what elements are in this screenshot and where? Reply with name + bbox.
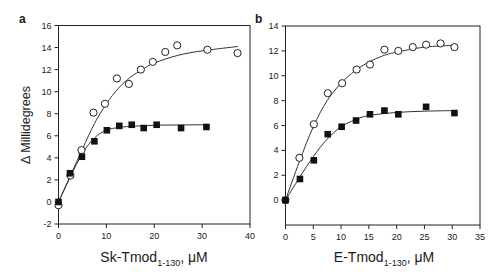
y-tick-label: 12 bbox=[41, 65, 51, 75]
x-tick-label: 40 bbox=[245, 231, 255, 241]
data-point-square bbox=[153, 121, 160, 128]
x-axis-title-main: Sk-Tmod bbox=[100, 249, 157, 265]
data-point-circle bbox=[437, 40, 444, 47]
data-point-square bbox=[79, 153, 86, 160]
panel-label-a: a bbox=[19, 12, 26, 26]
y-tick-label: 10 bbox=[268, 71, 278, 81]
y-tick-label: 8 bbox=[46, 109, 51, 119]
x-tick-label: 10 bbox=[101, 231, 111, 241]
y-tick-label: 10 bbox=[41, 87, 51, 97]
y-tick-label: 14 bbox=[41, 43, 51, 53]
x-axis-title-b: E-Tmod1-130, μM bbox=[334, 249, 434, 268]
x-axis-title-unit: , μM bbox=[407, 249, 435, 265]
y-tick-label: 16 bbox=[41, 21, 51, 31]
data-point-circle bbox=[101, 100, 108, 107]
data-point-square bbox=[338, 123, 345, 130]
data-point-circle bbox=[409, 44, 416, 51]
data-point-circle bbox=[234, 49, 241, 56]
x-ticks-b: 05101520253035 bbox=[283, 225, 485, 242]
y-tick-label: 0 bbox=[273, 195, 278, 205]
y-tick-label: 0 bbox=[46, 197, 51, 207]
x-tick-label: 0 bbox=[56, 231, 61, 241]
data-point-square bbox=[203, 124, 210, 131]
data-point-square bbox=[104, 127, 111, 134]
panel-b: b 02468101214 05101520253035 E-Tmod1-130… bbox=[255, 12, 485, 268]
y-ticks-b: 02468101214 bbox=[268, 21, 285, 205]
x-tick-label: 20 bbox=[392, 232, 402, 242]
panel-label-b: b bbox=[255, 12, 262, 26]
x-axis-title-subscript: 1-130 bbox=[384, 258, 407, 268]
data-point-circle bbox=[149, 58, 156, 65]
data-point-square bbox=[116, 123, 123, 130]
data-point-circle bbox=[137, 66, 144, 73]
data-point-circle bbox=[162, 48, 169, 55]
fit-curves-a bbox=[59, 46, 239, 201]
y-tick-label: 6 bbox=[273, 121, 278, 131]
data-point-circle bbox=[353, 66, 360, 73]
x-tick-label: 20 bbox=[149, 231, 159, 241]
data-point-circle bbox=[78, 147, 85, 154]
data-point-square bbox=[140, 125, 147, 132]
x-tick-label: 25 bbox=[419, 232, 429, 242]
data-point-square bbox=[423, 104, 430, 111]
data-point-circle bbox=[125, 80, 132, 87]
y-tick-label: 4 bbox=[273, 145, 278, 155]
data-point-circle bbox=[366, 61, 373, 68]
y-tick-label: 2 bbox=[273, 170, 278, 180]
data-point-circle bbox=[451, 44, 458, 51]
data-point-circle bbox=[90, 109, 97, 116]
y-tick-label: -2 bbox=[43, 219, 51, 229]
figure: Δ Millidegrees a -20246810121416 0102030… bbox=[0, 0, 499, 276]
data-point-circle bbox=[339, 80, 346, 87]
fit-curve bbox=[59, 125, 207, 202]
x-tick-label: 35 bbox=[475, 232, 485, 242]
x-axis-title-main: E-Tmod bbox=[334, 249, 384, 265]
x-tick-label: 30 bbox=[447, 232, 457, 242]
data-point-circle bbox=[113, 75, 120, 82]
x-tick-label: 10 bbox=[336, 232, 346, 242]
data-point-square bbox=[367, 111, 374, 118]
y-tick-label: 14 bbox=[268, 21, 278, 31]
data-point-circle bbox=[422, 41, 429, 48]
data-point-square bbox=[324, 131, 331, 138]
y-axis-title: Δ Millidegrees bbox=[19, 86, 33, 164]
data-point-circle bbox=[204, 46, 211, 53]
data-points-b bbox=[282, 40, 458, 204]
fit-curve bbox=[59, 46, 239, 201]
data-point-circle bbox=[310, 121, 317, 128]
data-point-square bbox=[178, 125, 185, 132]
data-point-circle bbox=[381, 46, 388, 53]
x-ticks-a: 010203040 bbox=[56, 224, 255, 241]
data-point-circle bbox=[296, 154, 303, 161]
data-point-square bbox=[381, 107, 388, 114]
data-point-square bbox=[91, 138, 98, 145]
panel-a: a -20246810121416 010203040 Sk-Tmod1-130… bbox=[19, 12, 255, 268]
data-point-circle bbox=[395, 47, 402, 54]
y-ticks-a: -20246810121416 bbox=[41, 21, 58, 230]
data-point-square bbox=[67, 170, 74, 177]
data-point-circle bbox=[174, 42, 181, 49]
data-point-square bbox=[55, 199, 62, 206]
data-point-square bbox=[128, 121, 135, 128]
data-point-square bbox=[311, 157, 318, 164]
x-tick-label: 30 bbox=[197, 231, 207, 241]
x-axis-title-subscript: 1-130 bbox=[157, 258, 180, 268]
y-tick-label: 6 bbox=[46, 131, 51, 141]
y-tick-label: 12 bbox=[268, 46, 278, 56]
x-axis-title-a: Sk-Tmod1-130, μM bbox=[100, 249, 207, 268]
x-tick-label: 0 bbox=[283, 232, 288, 242]
x-axis-title-unit: , μM bbox=[180, 249, 208, 265]
y-tick-label: 8 bbox=[273, 96, 278, 106]
data-point-square bbox=[297, 176, 304, 183]
data-point-square bbox=[395, 111, 402, 118]
data-point-square bbox=[353, 117, 360, 124]
x-tick-label: 5 bbox=[311, 232, 316, 242]
data-point-square bbox=[451, 110, 458, 117]
y-tick-label: 4 bbox=[46, 153, 51, 163]
y-tick-label: 2 bbox=[46, 175, 51, 185]
data-point-circle bbox=[324, 90, 331, 97]
data-point-square bbox=[282, 197, 289, 204]
x-tick-label: 15 bbox=[364, 232, 374, 242]
